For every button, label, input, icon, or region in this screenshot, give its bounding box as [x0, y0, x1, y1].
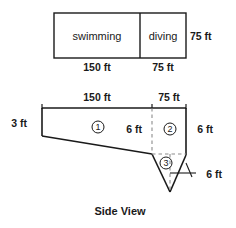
plan-width-label-diving: 75 ft — [152, 62, 174, 73]
plan-height-label: 75 ft — [190, 31, 212, 42]
region-marker-2: 2 — [164, 123, 177, 136]
side-top-label-75: 75 ft — [158, 92, 180, 103]
side-sloped-floor — [42, 136, 152, 154]
plan-room-label-swimming: swimming — [73, 31, 122, 42]
region-marker-3: 3 — [160, 157, 173, 170]
pool-diagram: swimming diving 75 ft 150 ft 75 ft 150 f… — [0, 0, 236, 228]
figure-caption: Side View — [94, 205, 145, 217]
side-top-label-150: 150 ft — [83, 92, 110, 103]
region-marker-1: 1 — [92, 121, 105, 134]
side-interior-depth-label: 6 ft — [126, 124, 142, 135]
plan-room-label-diving: diving — [149, 31, 178, 42]
side-left-depth-label: 3 ft — [11, 118, 27, 129]
leader-line-triangle-slant — [186, 163, 192, 177]
triangle-depth-label: 6 ft — [206, 169, 222, 180]
plan-width-label-swimming: 150 ft — [83, 62, 110, 73]
side-right-depth-label: 6 ft — [197, 124, 213, 135]
